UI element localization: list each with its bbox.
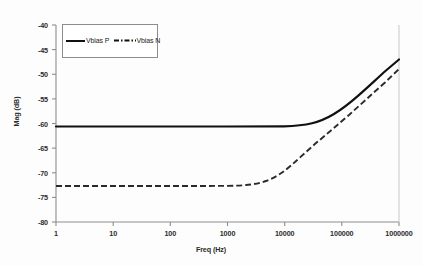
y-tick-label: -70 [20, 169, 48, 178]
y-tick-label: -65 [20, 144, 48, 153]
y-tick-label: -55 [20, 95, 48, 104]
series-line-vbias-p [56, 60, 399, 127]
y-tick-marks [52, 25, 56, 222]
y-tick-label: -50 [20, 70, 48, 79]
y-axis-title: Mag (dB) [12, 82, 21, 142]
y-tick-label: -45 [20, 46, 48, 55]
x-tick-label: 10000 [255, 229, 315, 238]
x-tick-label: 1 [26, 229, 86, 238]
y-tick-label: -75 [20, 193, 48, 202]
x-axis-title: Freq (Hz) [0, 245, 422, 254]
legend-entries-row: Vbias P Vbias N [66, 37, 160, 44]
chart-legend: Vbias P Vbias N [62, 24, 158, 58]
legend-swatch-dashdot-icon [114, 37, 136, 44]
x-tick-label: 100 [140, 229, 200, 238]
x-tick-label: 1000 [198, 229, 258, 238]
legend-label-vbias-n: Vbias N [136, 37, 160, 44]
x-tick-marks [56, 222, 399, 226]
figure-panel: -40 -45 -50 -55 -60 -65 -70 -75 -80 1 10… [0, 0, 422, 266]
x-tick-label: 10 [83, 229, 143, 238]
x-tick-label: 100000 [312, 229, 372, 238]
y-tick-label: -40 [20, 21, 48, 30]
x-tick-label: 1000000 [369, 229, 422, 238]
legend-swatch-solid-icon [66, 38, 85, 44]
y-tick-label: -60 [20, 120, 48, 129]
legend-label-vbias-p: Vbias P [86, 37, 109, 44]
y-tick-label: -80 [20, 218, 48, 227]
